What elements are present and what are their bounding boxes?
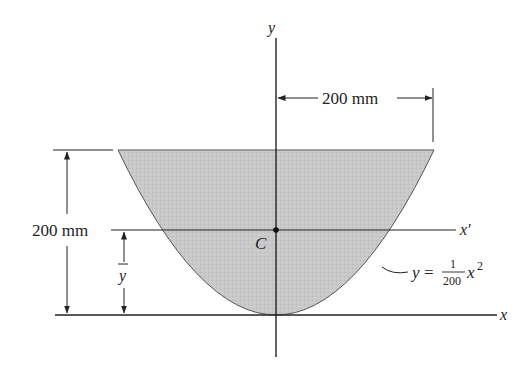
equation-variable: x <box>466 263 475 282</box>
equation-equals: = <box>424 263 434 282</box>
centroid-label: C <box>255 234 267 253</box>
equation-leader <box>382 267 408 273</box>
height-label: 200 mm <box>32 221 88 240</box>
equation-numerator: 1 <box>450 257 456 271</box>
centroid-dot <box>273 227 279 233</box>
x-prime-axis-label: x′ <box>459 221 471 238</box>
equation-denominator: 200 <box>443 274 461 288</box>
equation-exponent: 2 <box>477 259 483 273</box>
y-axis-label: y <box>266 19 276 37</box>
equation-lhs: y <box>410 263 420 282</box>
half-width-label: 200 mm <box>322 89 378 108</box>
diagram-canvas: y x x′ C 200 mm 200 mm y y = 1 200 x 2 <box>0 0 531 365</box>
x-axis-label: x <box>499 306 507 323</box>
ybar-label: y <box>117 267 127 285</box>
